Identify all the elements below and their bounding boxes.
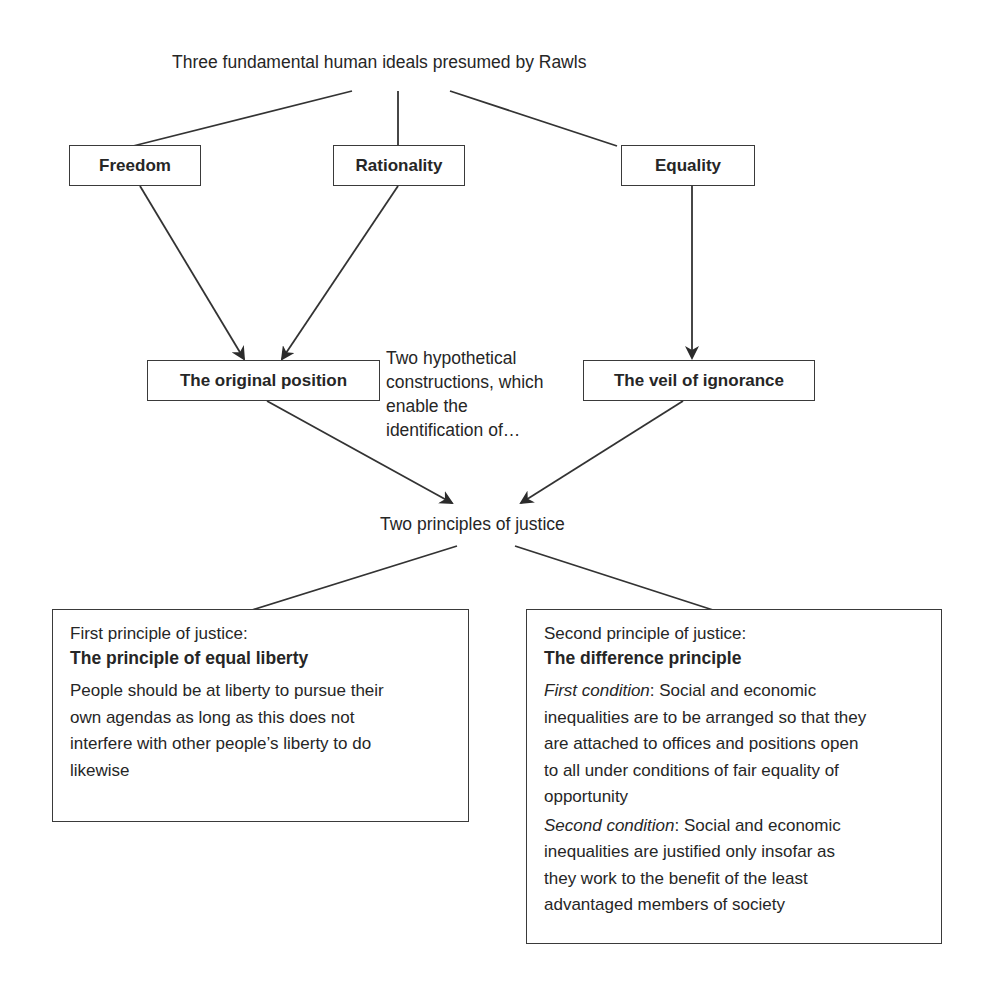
construction-veil-of-ignorance: The veil of ignorance <box>583 360 815 401</box>
second-principle-subtitle: Second principle of justice: <box>544 621 925 647</box>
note-line: enable the <box>386 394 544 418</box>
construction-label: The veil of ignorance <box>614 371 784 391</box>
ideal-freedom: Freedom <box>69 145 201 186</box>
ideal-rationality: Rationality <box>333 145 465 186</box>
arrow-rationality-to-original-position <box>282 186 398 359</box>
condition-line: inequalities are to be arranged so that … <box>544 705 925 732</box>
line-title-to-equality <box>450 91 617 146</box>
condition-line: advantaged members of society <box>544 892 925 919</box>
condition-line: they work to the benefit of the least <box>544 866 925 893</box>
first-condition: First condition: Social and economic ine… <box>544 678 925 811</box>
ideal-label: Rationality <box>356 156 443 176</box>
ideal-equality: Equality <box>621 145 755 186</box>
second-principle-heading: The difference principle <box>544 647 925 669</box>
second-principle-panel: Second principle of justice: The differe… <box>526 609 942 944</box>
note-line: constructions, which <box>386 370 544 394</box>
condition-line: to all under conditions of fair equality… <box>544 758 925 785</box>
first-principle-panel: First principle of justice: The principl… <box>52 609 469 822</box>
arrow-freedom-to-original-position <box>140 186 244 359</box>
condition-line: opportunity <box>544 784 925 811</box>
second-condition: Second condition: Social and economic in… <box>544 813 925 919</box>
ideal-label: Equality <box>655 156 721 176</box>
first-principle-body-line: own agendas as long as this does not <box>70 705 452 732</box>
construction-original-position: The original position <box>147 360 380 401</box>
line-principles-to-second <box>515 546 713 610</box>
line-principles-to-first <box>252 546 457 610</box>
first-principle-body-line: People should be at liberty to pursue th… <box>70 678 452 705</box>
principles-label: Two principles of justice <box>380 514 565 535</box>
rawls-justice-diagram: Three fundamental human ideals presumed … <box>0 0 993 994</box>
condition-label: First condition <box>544 681 650 700</box>
diagram-title: Three fundamental human ideals presumed … <box>172 52 586 73</box>
condition-text: : Social and economic <box>650 681 816 700</box>
arrow-veil-to-principles <box>521 401 683 503</box>
condition-line: are attached to offices and positions op… <box>544 731 925 758</box>
condition-text: : Social and economic <box>674 816 840 835</box>
first-principle-body-line: likewise <box>70 758 452 785</box>
line-title-to-freedom <box>133 91 352 146</box>
construction-label: The original position <box>180 371 347 391</box>
note-line: Two hypothetical <box>386 346 544 370</box>
constructions-note: Two hypothetical constructions, which en… <box>386 346 544 442</box>
first-principle-subtitle: First principle of justice: <box>70 621 452 647</box>
first-principle-body-line: interfere with other people’s liberty to… <box>70 731 452 758</box>
condition-line: inequalities are justified only insofar … <box>544 839 925 866</box>
first-principle-heading: The principle of equal liberty <box>70 647 452 669</box>
ideal-label: Freedom <box>99 156 171 176</box>
condition-label: Second condition <box>544 816 674 835</box>
note-line: identification of… <box>386 418 544 442</box>
